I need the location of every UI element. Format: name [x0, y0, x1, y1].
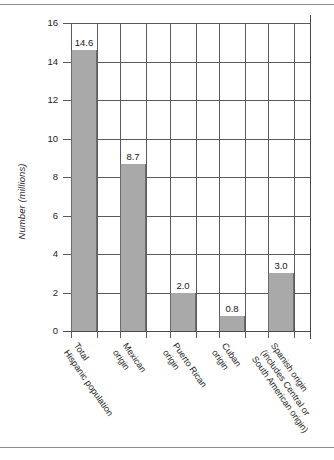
gridline-horizontal: [63, 23, 310, 24]
y-axis-tick-label: 12: [28, 95, 58, 105]
gridline-horizontal: [63, 62, 310, 63]
x-axis-tick: [294, 331, 295, 338]
x-axis-tick: [196, 331, 197, 338]
bar-value-label: 3.0: [274, 261, 287, 271]
gridline-vertical: [196, 23, 197, 331]
bar: 8.7: [120, 164, 146, 331]
gridline-vertical: [146, 23, 147, 331]
bar: 3.0: [268, 273, 294, 331]
gridline-vertical: [219, 23, 220, 331]
y-axis-tick-label: 14: [28, 57, 58, 67]
bar-value-label: 14.6: [75, 38, 94, 48]
axis-right-spine: [310, 15, 311, 339]
gridline-vertical: [97, 23, 98, 331]
gridline-horizontal: [63, 177, 310, 178]
y-axis-tick-label: 6: [28, 211, 58, 221]
bar-value-label: 2.0: [176, 281, 189, 291]
gridline-horizontal: [63, 216, 310, 217]
gridline-horizontal: [63, 331, 310, 332]
y-axis-tick-label: 16: [28, 18, 58, 28]
gridline-vertical: [245, 23, 246, 331]
x-axis-tick: [71, 331, 72, 338]
gridline-horizontal: [63, 100, 310, 101]
y-axis-tick-label: 8: [28, 172, 58, 182]
x-axis-tick: [245, 331, 246, 338]
gridline-horizontal: [63, 139, 310, 140]
x-axis-category-label: Puerto Ricanorigin: [160, 341, 209, 397]
x-axis-tick: [146, 331, 147, 338]
bar: 2.0: [170, 293, 196, 332]
bar-value-label: 0.8: [225, 304, 238, 314]
bar-value-label: 8.7: [126, 152, 139, 162]
x-axis-category-label: Mexicanorigin: [110, 341, 148, 382]
gridline-vertical: [170, 23, 171, 331]
y-axis-tick-label: 10: [28, 134, 58, 144]
bar: 14.6: [71, 50, 97, 331]
y-axis-tick-label: 4: [28, 249, 58, 259]
x-axis-category-label: Spanish origin(includes Central orSouth …: [249, 341, 329, 435]
y-axis-tick-label: 0: [28, 326, 58, 336]
x-axis-category-label: Cubanorigin: [209, 341, 243, 376]
gridline-vertical: [294, 23, 295, 331]
bar-chart-figure: Number (millions) 024681012141614.68.72.…: [0, 0, 334, 460]
y-axis-tick-label: 2: [28, 288, 58, 298]
x-axis-tick: [170, 331, 171, 338]
x-axis-tick: [268, 331, 269, 338]
y-axis-title: Number (millions): [16, 132, 27, 272]
plot-area: 024681012141614.68.72.00.83.0: [63, 23, 310, 331]
x-axis-tick: [219, 331, 220, 338]
x-axis-tick: [120, 331, 121, 338]
bar: 0.8: [219, 316, 245, 331]
gridline-horizontal: [63, 254, 310, 255]
x-axis-tick: [97, 331, 98, 338]
